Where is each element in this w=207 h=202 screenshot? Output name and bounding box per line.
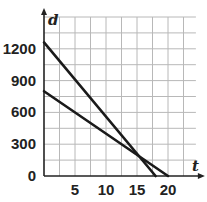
y-tick-label: 600: [11, 103, 36, 120]
x-axis-label: t: [192, 157, 199, 175]
x-tick-label: 15: [129, 181, 146, 198]
y-tick-label: 0: [28, 167, 36, 184]
y-axis-arrow-icon: [41, 8, 47, 15]
x-tick-label: 20: [160, 181, 177, 198]
y-tick-label: 900: [11, 72, 36, 89]
y-tick-label: 1200: [3, 40, 36, 57]
x-tick-label: 5: [71, 181, 79, 198]
y-tick-label: 300: [11, 135, 36, 152]
y-axis-label: d: [48, 11, 59, 29]
line-chart: 510152003006009001200dt: [0, 0, 207, 202]
x-tick-label: 10: [98, 181, 115, 198]
x-axis-arrow-icon: [198, 173, 205, 179]
